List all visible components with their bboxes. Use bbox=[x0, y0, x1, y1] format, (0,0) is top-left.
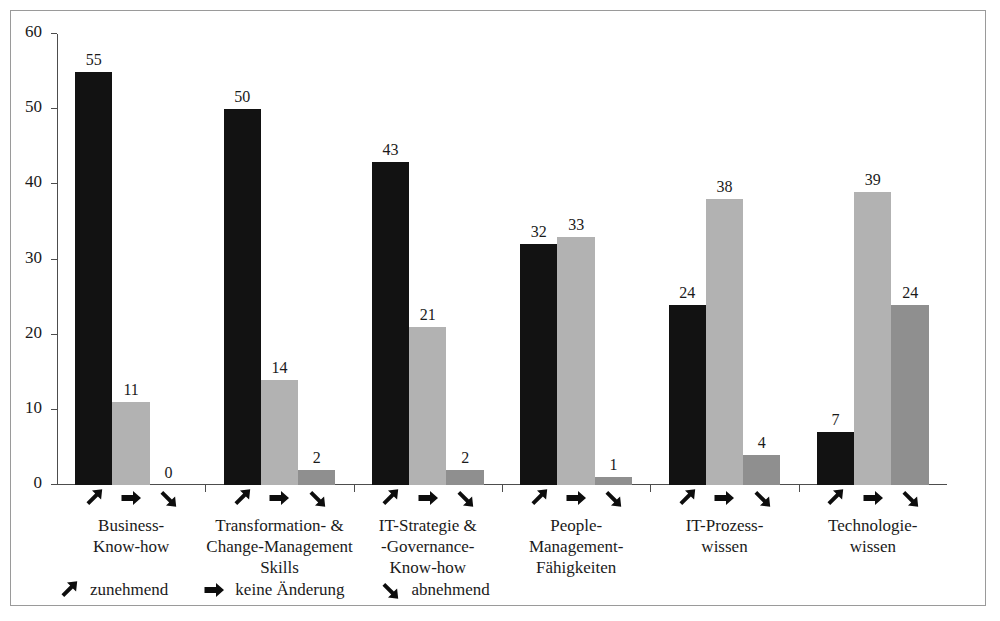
legend-label: zunehmend bbox=[90, 580, 168, 600]
bar[interactable]: 24 bbox=[669, 305, 706, 485]
legend-item[interactable]: zunehmend bbox=[57, 578, 168, 602]
arrow-up-right-icon bbox=[669, 486, 706, 510]
bar[interactable]: 2 bbox=[446, 470, 483, 485]
bar[interactable]: 55 bbox=[75, 72, 112, 485]
y-axis-tick-label: 10 bbox=[25, 398, 42, 418]
bar-value-label: 38 bbox=[716, 178, 732, 196]
bar[interactable]: 38 bbox=[706, 199, 743, 485]
y-axis-tick: 30 bbox=[51, 259, 57, 260]
arrow-right-icon bbox=[409, 486, 446, 510]
arrow-right-icon bbox=[706, 486, 743, 510]
y-axis-tick: 10 bbox=[51, 409, 57, 410]
bar-group: 32331People-Management-Fähigkeiten bbox=[520, 34, 632, 485]
bar-slot: 11 bbox=[112, 34, 149, 485]
legend-item[interactable]: abnehmend bbox=[378, 578, 489, 602]
arrow-up-right-icon bbox=[520, 486, 557, 510]
arrow-up-right-icon bbox=[57, 578, 81, 602]
y-axis-tick-label: 20 bbox=[25, 323, 42, 343]
category-label: Technologie-wissen bbox=[783, 515, 963, 557]
y-axis-tick: 0 bbox=[51, 484, 57, 485]
category-trend-icons bbox=[372, 485, 484, 511]
bar-slot: 1 bbox=[595, 34, 632, 485]
arrow-down-right-icon bbox=[150, 486, 187, 510]
bar-group: 24384IT-Prozess-wissen bbox=[669, 34, 781, 485]
bar[interactable]: 24 bbox=[891, 305, 928, 485]
bar[interactable]: 43 bbox=[372, 162, 409, 485]
legend-label: abnehmend bbox=[411, 580, 489, 600]
y-axis-tick-label: 30 bbox=[25, 248, 42, 268]
arrow-up-right-icon bbox=[372, 486, 409, 510]
arrow-up-right-icon bbox=[224, 486, 261, 510]
bar[interactable]: 7 bbox=[817, 432, 854, 485]
bar-value-label: 2 bbox=[461, 449, 469, 467]
bar[interactable]: 21 bbox=[409, 327, 446, 485]
category-trend-icons bbox=[520, 485, 632, 511]
arrow-down-right-icon bbox=[378, 578, 402, 602]
bar-value-label: 2 bbox=[313, 449, 321, 467]
arrow-down-right-icon bbox=[743, 486, 780, 510]
bar-value-label: 24 bbox=[902, 284, 918, 302]
arrow-right-icon bbox=[557, 486, 594, 510]
bar[interactable]: 14 bbox=[261, 380, 298, 485]
bar-value-label: 50 bbox=[234, 88, 250, 106]
bar-group: 73924Technologie-wissen bbox=[817, 34, 929, 485]
plot-area: 6050403020100 55110Business-Know-how5014… bbox=[57, 34, 947, 485]
bar-value-label: 11 bbox=[123, 381, 138, 399]
y-axis-tick-label: 60 bbox=[25, 22, 42, 42]
bar-value-label: 43 bbox=[382, 141, 398, 159]
arrow-up-right-icon bbox=[75, 486, 112, 510]
legend-item[interactable]: keine Änderung bbox=[202, 578, 344, 602]
bar-slot: 24 bbox=[891, 34, 928, 485]
bar-slot: 39 bbox=[854, 34, 891, 485]
y-axis-tick: 60 bbox=[51, 33, 57, 34]
y-axis-tick-label: 0 bbox=[34, 473, 43, 493]
y-axis-tick: 50 bbox=[51, 108, 57, 109]
bar-slot: 24 bbox=[669, 34, 706, 485]
category-trend-icons bbox=[817, 485, 929, 511]
bar[interactable]: 39 bbox=[854, 192, 891, 485]
bar-slot: 0 bbox=[150, 34, 187, 485]
bar[interactable]: 2 bbox=[298, 470, 335, 485]
bar-value-label: 24 bbox=[679, 284, 695, 302]
bar-value-label: 0 bbox=[164, 464, 172, 482]
bar[interactable]: 11 bbox=[112, 402, 149, 485]
bar-group: 43212IT-Strategie &-Governance-Know-how bbox=[372, 34, 484, 485]
arrow-right-icon bbox=[854, 486, 891, 510]
y-axis-tick-label: 50 bbox=[25, 97, 42, 117]
category-label-line: wissen bbox=[783, 536, 963, 557]
bar-group-bars: 55110 bbox=[75, 34, 187, 485]
x-axis-group-separator bbox=[502, 485, 503, 492]
bar-slot: 14 bbox=[261, 34, 298, 485]
y-axis-tick: 40 bbox=[51, 183, 57, 184]
arrow-down-right-icon bbox=[446, 486, 483, 510]
bar[interactable]: 4 bbox=[743, 455, 780, 485]
arrow-up-right-icon bbox=[817, 486, 854, 510]
bar-slot: 43 bbox=[372, 34, 409, 485]
bar-slot: 38 bbox=[706, 34, 743, 485]
category-trend-icons bbox=[669, 485, 781, 511]
bar-value-label: 21 bbox=[420, 306, 436, 324]
y-axis-line bbox=[57, 34, 58, 485]
x-axis-group-separator bbox=[799, 485, 800, 492]
bar-slot: 32 bbox=[520, 34, 557, 485]
bar[interactable]: 32 bbox=[520, 244, 557, 485]
category-label-line: Technologie- bbox=[783, 515, 963, 536]
chart-legend: zunehmendkeine Änderungabnehmend bbox=[57, 578, 524, 602]
bar-slot: 55 bbox=[75, 34, 112, 485]
bar[interactable]: 33 bbox=[557, 237, 594, 485]
bar-slot: 21 bbox=[409, 34, 446, 485]
bar-slot: 2 bbox=[446, 34, 483, 485]
category-trend-icons bbox=[75, 485, 187, 511]
bar-group-bars: 43212 bbox=[372, 34, 484, 485]
arrow-down-right-icon bbox=[891, 486, 928, 510]
bar-value-label: 39 bbox=[865, 171, 881, 189]
y-axis-tick: 20 bbox=[51, 334, 57, 335]
bar-slot: 7 bbox=[817, 34, 854, 485]
bar-value-label: 1 bbox=[609, 456, 617, 474]
bar[interactable]: 50 bbox=[224, 109, 261, 485]
bar[interactable]: 1 bbox=[595, 477, 632, 485]
x-axis-group-separator bbox=[650, 485, 651, 492]
bar-group: 50142Transformation- &Change-ManagementS… bbox=[224, 34, 336, 485]
bar-group-bars: 24384 bbox=[669, 34, 781, 485]
category-label-line: Fähigkeiten bbox=[486, 557, 666, 578]
